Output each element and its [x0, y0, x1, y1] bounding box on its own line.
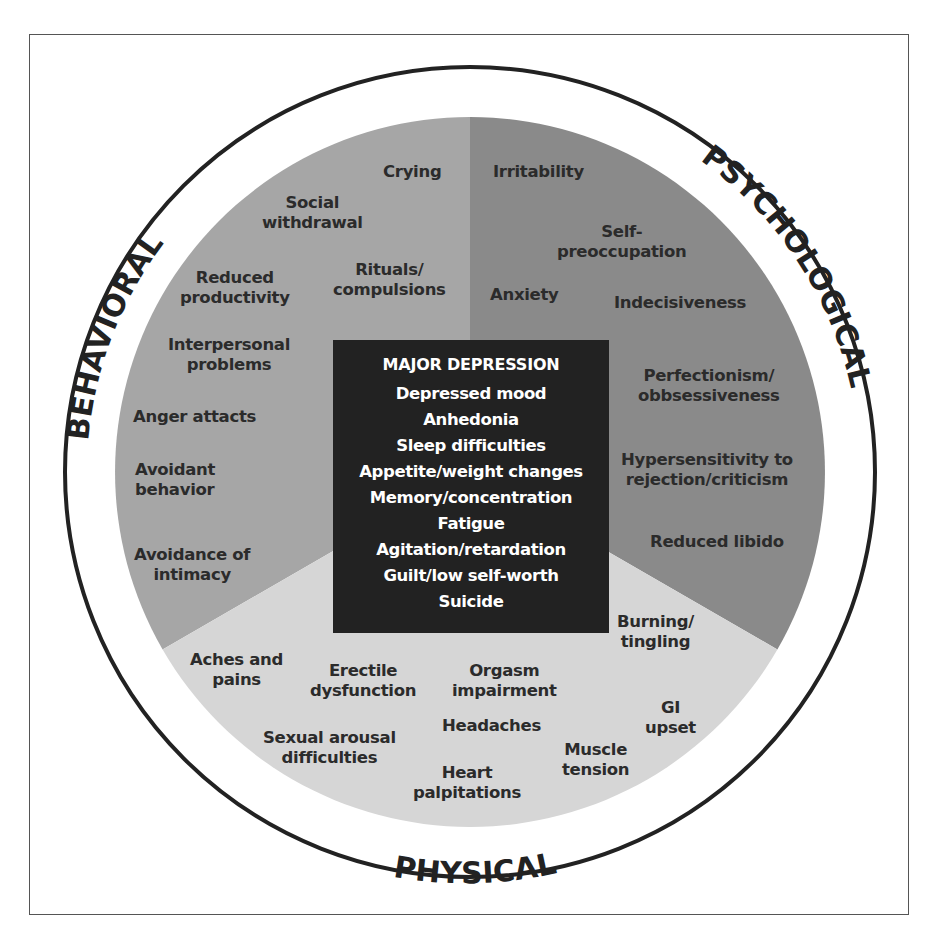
core-symptom: Depressed mood — [333, 381, 609, 407]
symptom-gi-upset: GI upset — [645, 698, 696, 738]
symptom-self-preoccupation: Self- preoccupation — [557, 222, 686, 262]
core-symptom: Guilt/low self-worth — [333, 563, 609, 589]
symptom-irritability: Irritability — [493, 162, 584, 182]
symptom-avoidance-of-intimacy: Avoidance of intimacy — [134, 545, 250, 585]
symptom-interpersonal-problems: Interpersonal problems — [168, 335, 290, 375]
symptom-anger-attacts: Anger attacts — [133, 407, 256, 427]
symptom-social-withdrawal: Social withdrawal — [262, 193, 363, 233]
symptom-reduced-productivity: Reduced productivity — [180, 268, 290, 308]
physical-ring-label: PHYSICAL — [392, 845, 559, 890]
symptom-avoidant-behavior: Avoidant behavior — [135, 460, 215, 500]
symptom-burning-tingling: Burning/ tingling — [617, 612, 694, 652]
symptom-hypersensitivity-to-rejection: Hypersensitivity to rejection/criticism — [621, 450, 793, 490]
symptom-orgasm-impairment: Orgasm impairment — [452, 661, 557, 701]
symptom-aches-and-pains: Aches and pains — [190, 650, 283, 690]
symptom-rituals-compulsions: Rituals/ compulsions — [333, 260, 446, 300]
symptom-erectile-dysfunction: Erectile dysfunction — [310, 661, 416, 701]
core-symptom: Sleep difficulties — [333, 433, 609, 459]
core-symptom: Agitation/retardation — [333, 537, 609, 563]
major-depression-box: MAJOR DEPRESSION Depressed mood Anhedoni… — [333, 340, 609, 633]
center-title: MAJOR DEPRESSION — [333, 354, 609, 376]
core-symptom: Anhedonia — [333, 407, 609, 433]
symptom-crying: Crying — [383, 162, 441, 182]
symptom-heart-palpitations: Heart palpitations — [413, 763, 521, 803]
symptom-perfectionism-obsessiveness: Perfectionism/ obbsessiveness — [638, 366, 780, 406]
symptom-sexual-arousal-difficulties: Sexual arousal difficulties — [263, 728, 396, 768]
core-symptom: Fatigue — [333, 511, 609, 537]
core-symptom: Suicide — [333, 589, 609, 615]
symptom-reduced-libido: Reduced libido — [650, 532, 784, 552]
symptom-indecisiveness: Indecisiveness — [614, 293, 746, 313]
core-symptom: Memory/concentration — [333, 485, 609, 511]
core-symptom: Appetite/weight changes — [333, 459, 609, 485]
symptom-anxiety: Anxiety — [490, 285, 559, 305]
symptom-headaches: Headaches — [442, 716, 541, 736]
symptom-muscle-tension: Muscle tension — [562, 740, 629, 780]
